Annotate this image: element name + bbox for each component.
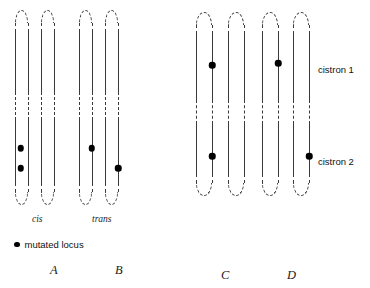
strand-solid-lower	[293, 124, 294, 174]
strand-dash-top	[278, 25, 279, 34]
legend-mutated-locus: mutated locus	[14, 239, 84, 250]
mutated-locus-icon	[14, 242, 20, 248]
strand-dash-bottom	[278, 174, 279, 183]
legend-label: mutated locus	[25, 239, 84, 250]
strand-solid-lower	[309, 124, 310, 174]
strand-dash-top	[262, 25, 263, 34]
hairpin-bottom-cap	[293, 183, 309, 196]
strand-dash-break	[309, 100, 310, 124]
strand-solid-upper	[309, 34, 310, 100]
cistron-1-label: cistron 1	[318, 64, 354, 75]
strand-solid-upper	[262, 34, 263, 100]
group-D-locus-d2	[306, 153, 313, 160]
group-D-locus-d1	[275, 60, 282, 67]
strand-dash-break	[262, 100, 263, 124]
strand-dash-top	[309, 25, 310, 34]
strand-dash-bottom	[262, 174, 263, 183]
strand-dash-bottom	[309, 174, 310, 183]
strand-solid-lower	[278, 124, 279, 174]
strand-dash-break	[293, 100, 294, 124]
group-letter-D: D	[287, 268, 296, 283]
strand-dash-top	[293, 25, 294, 34]
strand-solid-upper	[278, 34, 279, 100]
strand-dash-bottom	[293, 174, 294, 183]
strand-solid-lower	[262, 124, 263, 174]
figure-canvas: cisAtransBCDcistron 1cistron 2mutated lo…	[0, 0, 370, 288]
strand-solid-upper	[293, 34, 294, 100]
cistron-2-label: cistron 2	[318, 156, 354, 167]
strand-dash-break	[278, 100, 279, 124]
hairpin-top-cap	[262, 12, 278, 25]
group-D-chromosome-left	[262, 12, 278, 196]
hairpin-bottom-cap	[262, 183, 278, 196]
hairpin-top-cap	[293, 12, 309, 25]
group-D-chromosome-right	[293, 12, 309, 196]
